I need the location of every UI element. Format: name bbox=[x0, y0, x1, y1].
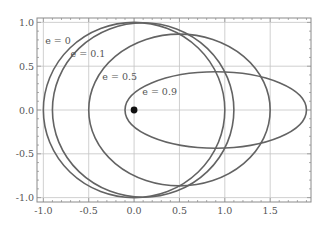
curve-label: e = 0.9 bbox=[142, 86, 177, 97]
curve-label: e = 0.1 bbox=[71, 48, 106, 59]
y-tick-label: -0.5 bbox=[16, 148, 34, 159]
orbit-ellipse-chart: -1.0-0.50.00.51.01.5 -1.0-0.50.00.51.0 e… bbox=[0, 0, 324, 227]
focus-point-marker bbox=[131, 107, 138, 114]
x-tick-label: 1.0 bbox=[217, 205, 232, 216]
y-tick-label: 0.0 bbox=[19, 105, 34, 116]
curve-label: e = 0.5 bbox=[102, 71, 137, 82]
x-tick-label: -0.5 bbox=[80, 205, 98, 216]
x-tick-label: 0.5 bbox=[172, 205, 187, 216]
y-tick-label: 0.5 bbox=[19, 61, 34, 72]
y-tick-label: 1.0 bbox=[19, 17, 34, 28]
x-tick-label: 1.5 bbox=[263, 205, 278, 216]
x-tick-label: 0.0 bbox=[127, 205, 142, 216]
y-tick-label: -1.0 bbox=[16, 192, 34, 203]
y-axis-tick-labels: -1.0-0.50.00.51.0 bbox=[16, 17, 34, 203]
x-tick-label: -1.0 bbox=[34, 205, 52, 216]
curve-label: e = 0 bbox=[45, 35, 71, 46]
x-axis-tick-labels: -1.0-0.50.00.51.01.5 bbox=[34, 205, 278, 216]
